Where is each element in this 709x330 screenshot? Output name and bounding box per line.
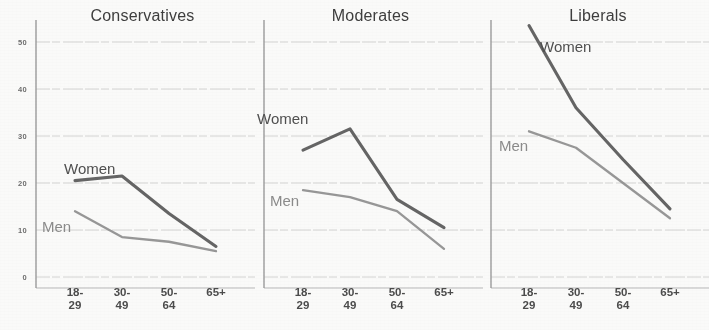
x-tick-18-29: 18-29 xyxy=(67,286,84,311)
x-tick-65plus: 65+ xyxy=(660,286,680,299)
y-tick-30: 30 xyxy=(18,132,27,141)
panel-conservatives: Conservatives Women Men 18-29 30-49 50-6… xyxy=(30,0,255,330)
plot-area-moderates xyxy=(258,0,483,330)
series-label-men-conservatives: Men xyxy=(42,218,71,235)
x-tick-50-64: 50-64 xyxy=(161,286,178,311)
y-tick-40: 40 xyxy=(18,85,27,94)
series-label-women-liberals: Women xyxy=(540,38,591,55)
panel-moderates: Moderates Women Men 18-29 30-49 50-64 65… xyxy=(258,0,483,330)
series-label-women-moderates: Women xyxy=(257,110,308,127)
chart-figure: 50 40 30 20 10 0 Conservatives Women Men… xyxy=(0,0,709,330)
x-tick-50-64: 50-64 xyxy=(615,286,632,311)
x-tick-65plus: 65+ xyxy=(434,286,454,299)
y-tick-20: 20 xyxy=(18,179,27,188)
y-tick-0: 0 xyxy=(23,273,27,282)
x-tick-30-49: 30-49 xyxy=(114,286,131,311)
series-label-men-moderates: Men xyxy=(270,192,299,209)
panel-liberals: Liberals Women Men 18-29 30-49 50-64 65+ xyxy=(487,0,709,330)
x-tick-65plus: 65+ xyxy=(206,286,226,299)
x-axis-labels-moderates: 18-29 30-49 50-64 65+ xyxy=(258,286,483,322)
x-tick-30-49: 30-49 xyxy=(342,286,359,311)
x-tick-30-49: 30-49 xyxy=(568,286,585,311)
y-tick-10: 10 xyxy=(18,226,27,235)
x-axis-labels-conservatives: 18-29 30-49 50-64 65+ xyxy=(30,286,255,322)
x-tick-18-29: 18-29 xyxy=(295,286,312,311)
x-tick-50-64: 50-64 xyxy=(389,286,406,311)
x-axis-labels-liberals: 18-29 30-49 50-64 65+ xyxy=(487,286,709,322)
y-tick-50: 50 xyxy=(18,38,27,47)
x-tick-18-29: 18-29 xyxy=(521,286,538,311)
series-label-women-conservatives: Women xyxy=(64,160,115,177)
y-axis-labels: 50 40 30 20 10 0 xyxy=(0,0,30,330)
plot-area-liberals xyxy=(487,0,709,330)
series-label-men-liberals: Men xyxy=(499,137,528,154)
